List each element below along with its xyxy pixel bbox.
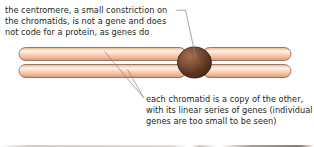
- chromosome-diagram-figure: the centromere, a small constriction on …: [0, 0, 314, 147]
- lower-chromatid-left-arm: [19, 65, 186, 78]
- upper-chromatid-left-arm: [19, 48, 186, 61]
- centromere-caption-text: the centromere, a small constriction on …: [5, 5, 195, 39]
- page-edge-artifact: [0, 145, 314, 147]
- upper-chromatid-right-arm: [203, 48, 291, 61]
- chromatid-caption-text: each chromatid is a copy of the other, w…: [146, 94, 314, 128]
- lower-chromatid-right-arm: [203, 65, 291, 78]
